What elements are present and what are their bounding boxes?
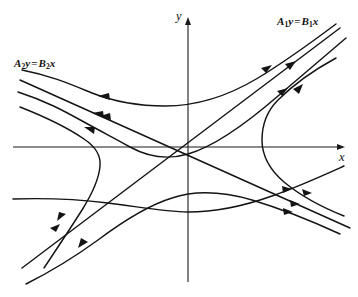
- asymptote-line-2: [20, 80, 350, 228]
- y-axis-label-text: y: [176, 9, 182, 23]
- eq2-x-symbol: x: [50, 57, 56, 69]
- asymptote-1-equation-label: A1y=B1x: [277, 15, 318, 29]
- trajectory-lower-inner: [26, 193, 340, 284]
- phase-portrait-figure: y x A1y=B1x A2y=B2x: [0, 0, 358, 297]
- trajectory-group: [13, 24, 346, 284]
- y-axis-label: y: [176, 9, 182, 24]
- flow-arrow-group: [50, 61, 312, 248]
- x-axis-label-text: x: [339, 150, 345, 164]
- asymptote-2-equation-label: A2y=B2x: [14, 57, 55, 71]
- flow-arrow-asymptote1-lower: [50, 224, 60, 232]
- eq2-equals: =: [30, 57, 38, 69]
- x-axis-label: x: [339, 150, 345, 165]
- trajectory-upper-inner: [18, 38, 346, 157]
- eq1-b-symbol: B: [302, 15, 309, 27]
- trajectory-left-branch: [20, 107, 100, 268]
- flow-arrow-upper-inner-left: [92, 111, 104, 118]
- flow-arrow-lower-inner-left: [78, 238, 88, 248]
- flow-arrow-left-branch-upper: [84, 127, 95, 134]
- eq2-b-symbol: B: [39, 57, 46, 69]
- flow-arrow-upper-outer-left: [98, 93, 110, 100]
- eq1-x-symbol: x: [313, 15, 319, 27]
- flow-arrow-left-branch-lower: [57, 212, 66, 221]
- eq1-equals: =: [293, 15, 301, 27]
- y-axis-arrowhead: [185, 17, 191, 25]
- flow-arrow-right-branch-lower: [302, 189, 312, 196]
- flow-arrow-upper-outer-right: [261, 65, 272, 73]
- flow-arrow-asymptote2-lower: [290, 200, 300, 207]
- asymptote-group: [20, 28, 350, 268]
- plot-canvas: [0, 0, 358, 297]
